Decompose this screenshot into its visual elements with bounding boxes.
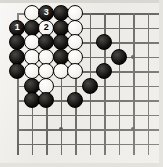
scan-edge-right — [159, 0, 163, 167]
star-point-lower-left — [59, 127, 63, 131]
scan-edge-bottom — [0, 163, 163, 167]
stone-white[interactable] — [67, 63, 83, 79]
go-board-diagram: 312 — [0, 0, 163, 167]
star-point-upper-right — [131, 55, 135, 59]
move-number-label: 1 — [15, 23, 20, 32]
move-number-label: 3 — [44, 8, 49, 17]
move-number-label: 2 — [44, 23, 49, 32]
grid-line-vertical-9 — [133, 13, 135, 155]
board-surface[interactable]: 312 — [0, 0, 163, 167]
star-point-lower-right — [131, 127, 135, 131]
stone-black[interactable] — [96, 63, 112, 79]
stone-black[interactable] — [67, 92, 83, 108]
stone-black[interactable] — [82, 78, 98, 94]
stone-black[interactable] — [111, 49, 127, 65]
stone-black[interactable] — [38, 92, 54, 108]
grid-line-vertical-8 — [119, 13, 121, 155]
grid-line-vertical-10 — [148, 13, 150, 155]
stone-black[interactable] — [96, 34, 112, 50]
scan-edge-top — [0, 0, 163, 3]
